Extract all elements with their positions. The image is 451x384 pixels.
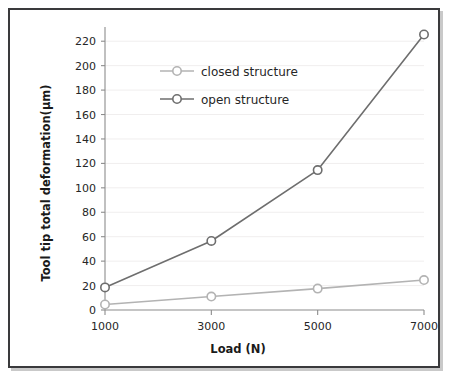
y-axis-tick-label: 20 [82, 280, 96, 293]
y-axis-ticks [101, 41, 105, 310]
y-axis-tick-label: 160 [75, 109, 96, 122]
figure-container: 020406080100120140160180200220 100030005… [0, 0, 451, 384]
legend-label: open structure [201, 93, 289, 107]
x-axis-tick-label: 1000 [91, 320, 119, 333]
legend-marker [173, 95, 181, 103]
x-axis-tick-label: 3000 [197, 320, 225, 333]
series-marker [207, 292, 215, 300]
legend-label: closed structure [201, 65, 298, 79]
y-axis-tick-label: 100 [75, 182, 96, 195]
series-marker [313, 166, 321, 174]
series-line [105, 280, 424, 304]
legend-item[interactable]: open structure [160, 93, 289, 107]
series-marker [207, 237, 215, 245]
x-axis-title: Load (N) [210, 342, 265, 356]
chart-series [101, 276, 428, 309]
y-axis-tick-label: 200 [75, 60, 96, 73]
legend-marker [173, 67, 181, 75]
series-marker [420, 30, 428, 38]
chart-legend: closed structureopen structure [160, 65, 298, 107]
legend-item[interactable]: closed structure [160, 65, 298, 79]
series-marker [101, 300, 109, 308]
x-axis-ticks [105, 310, 424, 315]
y-axis-tick-label: 40 [82, 255, 96, 268]
x-axis-tick-labels: 1000300050007000 [91, 320, 438, 333]
series-marker [101, 283, 109, 291]
line-chart: 020406080100120140160180200220 100030005… [8, 8, 440, 368]
y-axis-title: Tool tip total deformation(μm) [39, 84, 53, 281]
series-marker [420, 276, 428, 284]
y-axis-tick-labels: 020406080100120140160180200220 [75, 35, 96, 317]
y-axis-tick-label: 220 [75, 35, 96, 48]
y-axis-tick-label: 0 [89, 304, 96, 317]
x-axis-tick-label: 7000 [410, 320, 438, 333]
series-marker [313, 284, 321, 292]
y-axis-tick-label: 80 [82, 206, 96, 219]
x-axis-tick-label: 5000 [304, 320, 332, 333]
y-axis-tick-label: 60 [82, 231, 96, 244]
y-axis-tick-label: 140 [75, 133, 96, 146]
y-axis-tick-label: 120 [75, 157, 96, 170]
y-axis-tick-label: 180 [75, 84, 96, 97]
